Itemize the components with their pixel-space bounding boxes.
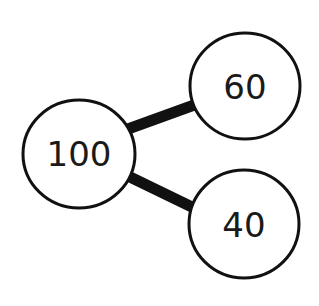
connector-whole-to-part-60 bbox=[128, 104, 197, 129]
part-circle-bottom: 40 bbox=[189, 170, 299, 278]
whole-circle: 100 bbox=[23, 100, 135, 208]
part-value-bottom: 40 bbox=[222, 205, 265, 245]
part-value-top: 60 bbox=[223, 67, 266, 107]
whole-value: 100 bbox=[47, 134, 112, 174]
part-circle-top: 60 bbox=[190, 33, 300, 139]
number-bond-diagram: 100 60 40 bbox=[0, 0, 319, 306]
connector-whole-to-part-40 bbox=[128, 176, 196, 209]
